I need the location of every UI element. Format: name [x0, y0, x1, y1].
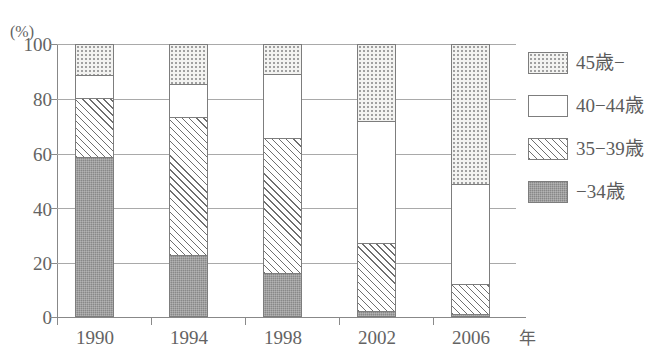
legend-swatch-solid-icon [528, 181, 568, 203]
segment-1994-35to39[interactable] [169, 117, 208, 256]
y-tick-mark-40 [50, 208, 57, 209]
x-tick-label-1990: 1990 [50, 328, 140, 348]
segment-1998-45plus[interactable] [263, 44, 302, 75]
legend: 45歳− 40−44歳 35−39歳 −34歳 [528, 50, 653, 222]
legend-swatch-hatch-icon [528, 138, 568, 160]
x-tick-mark-2006 [433, 318, 434, 325]
segment-1990-35to39[interactable] [75, 98, 114, 158]
legend-label-45plus: 45歳− [576, 50, 625, 76]
bar-1990[interactable] [75, 44, 114, 317]
y-tick-mark-0 [50, 317, 57, 318]
legend-swatch-white-icon [528, 95, 568, 117]
y-tick-label-100: 100 [8, 35, 52, 54]
x-tick-label-1994: 1994 [144, 328, 234, 348]
x-tick-mark-1998 [245, 318, 246, 325]
y-tick-label-60: 60 [8, 145, 52, 164]
segment-1998-under34[interactable] [263, 273, 302, 317]
y-tick-label-40: 40 [8, 200, 52, 219]
segment-2002-40to44[interactable] [357, 121, 396, 244]
segment-1990-40to44[interactable] [75, 75, 114, 99]
x-tick-mark-1990 [57, 318, 58, 325]
segment-1998-40to44[interactable] [263, 74, 302, 139]
y-tick-label-80: 80 [8, 90, 52, 109]
y-tick-mark-20 [50, 263, 57, 264]
segment-1994-40to44[interactable] [169, 84, 208, 118]
y-tick-mark-100 [50, 44, 57, 45]
segment-1990-45plus[interactable] [75, 44, 114, 76]
clipped-title-strip [0, 0, 659, 7]
segment-2006-40to44[interactable] [451, 184, 490, 285]
x-tick-mark-2002 [339, 318, 340, 325]
legend-label-under34: −34歳 [576, 179, 625, 205]
y-axis-line [57, 44, 58, 317]
segment-1994-under34[interactable] [169, 255, 208, 317]
x-tick-label-1998: 1998 [238, 328, 328, 348]
segment-2006-45plus[interactable] [451, 44, 490, 185]
segment-1998-35to39[interactable] [263, 138, 302, 274]
y-tick-label-20: 20 [8, 254, 52, 273]
x-tick-label-2002: 2002 [332, 328, 422, 348]
legend-item-under34[interactable]: −34歳 [528, 179, 653, 213]
legend-label-35to39: 35−39歳 [576, 136, 644, 162]
legend-item-35to39[interactable]: 35−39歳 [528, 136, 653, 170]
x-axis-line [57, 317, 526, 318]
x-axis-unit-label: 年 [519, 329, 536, 348]
segment-2002-35to39[interactable] [357, 243, 396, 312]
segment-2002-45plus[interactable] [357, 44, 396, 122]
legend-item-45plus[interactable]: 45歳− [528, 50, 653, 84]
legend-label-40to44: 40−44歳 [576, 93, 644, 119]
segment-1990-under34[interactable] [75, 157, 114, 317]
legend-swatch-dotted-icon [528, 52, 568, 74]
bar-1998[interactable] [263, 44, 302, 317]
y-tick-label-0: 0 [8, 308, 52, 327]
bar-1994[interactable] [169, 44, 208, 317]
bar-2002[interactable] [357, 44, 396, 317]
x-tick-label-2006: 2006 [426, 328, 516, 348]
y-tick-mark-80 [50, 99, 57, 100]
x-tick-mark-1994 [151, 318, 152, 325]
plot-area [57, 44, 516, 317]
y-tick-mark-60 [50, 154, 57, 155]
segment-2006-35to39[interactable] [451, 284, 490, 315]
legend-item-40to44[interactable]: 40−44歳 [528, 93, 653, 127]
bar-2006[interactable] [451, 44, 490, 317]
segment-1994-45plus[interactable] [169, 44, 208, 85]
